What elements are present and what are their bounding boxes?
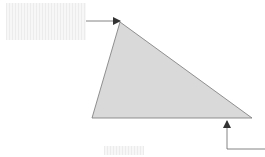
- arrow-to-base: [227, 121, 265, 149]
- diagram-canvas: [0, 0, 265, 157]
- triangle-shape: [92, 22, 252, 118]
